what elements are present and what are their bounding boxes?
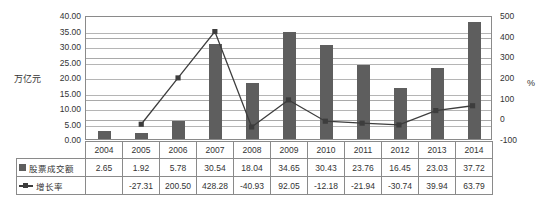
year-header-2009: 2009: [271, 142, 308, 159]
line-marker: [470, 103, 475, 108]
year-header-2012: 2012: [382, 142, 419, 159]
year-header-2005: 2005: [123, 142, 160, 159]
cell-增长率-2007: 428.28: [197, 177, 234, 195]
cell-增长率-2005: -27.31: [123, 177, 160, 195]
cell-股票成交额-2008: 18.04: [234, 159, 271, 177]
cell-股票成交额-2012: 16.45: [382, 159, 419, 177]
line-marker: [139, 122, 144, 127]
cell-股票成交额-2013: 23.03: [419, 159, 456, 177]
cell-增长率-2010: -12.18: [308, 177, 345, 195]
year-header-2013: 2013: [419, 142, 456, 159]
table-row: 增长率 -27.31200.50428.28-40.9392.05-12.18-…: [17, 177, 493, 195]
cell-股票成交额-2006: 5.78: [160, 159, 197, 177]
cell-股票成交额-2010: 30.43: [308, 159, 345, 177]
growth-rate-line: [141, 32, 472, 127]
line-series: [86, 17, 491, 139]
cell-增长率-2009: 92.05: [271, 177, 308, 195]
year-header-2007: 2007: [197, 142, 234, 159]
right-tick-2: 300: [500, 53, 530, 62]
cell-增长率-2008: -40.93: [234, 177, 271, 195]
year-header-2014: 2014: [456, 142, 493, 159]
data-table: 2004200520062007200820092010201120122013…: [16, 141, 493, 195]
year-header-2011: 2011: [345, 142, 382, 159]
line-marker: [360, 121, 365, 126]
plot-area: [85, 16, 492, 140]
series-name: 股票成交额: [29, 164, 74, 174]
right-tick-0: 500: [500, 12, 530, 21]
cell-股票成交额-2009: 34.65: [271, 159, 308, 177]
right-tick-5: 0: [500, 115, 530, 124]
cell-增长率-2013: 39.94: [419, 177, 456, 195]
series-label-bar: 股票成交额: [17, 159, 86, 177]
cell-增长率-2011: -21.94: [345, 177, 382, 195]
series-name: 增长率: [36, 182, 63, 192]
cell-股票成交额-2005: 1.92: [123, 159, 160, 177]
line-marker: [323, 119, 328, 124]
line-marker: [396, 122, 401, 127]
legend-square-icon: [19, 164, 26, 171]
cell-股票成交额-2007: 30.54: [197, 159, 234, 177]
cell-增长率-2014: 63.79: [456, 177, 493, 195]
cell-股票成交额-2004: 2.65: [86, 159, 123, 177]
legend-line-marker-icon: [19, 182, 33, 189]
chart-container: 万亿元 % 40.0035.0030.0025.0020.0015.0010.0…: [0, 0, 546, 202]
line-marker: [249, 124, 254, 129]
right-tick-6: -100: [500, 136, 530, 145]
right-tick-4: 100: [500, 95, 530, 104]
cell-增长率-2012: -30.74: [382, 177, 419, 195]
table-row: 股票成交额2.651.925.7830.5418.0434.6530.4323.…: [17, 159, 493, 177]
right-tick-1: 400: [500, 33, 530, 42]
cell-增长率-2004: [86, 177, 123, 195]
table-corner-cell: [17, 142, 86, 159]
year-header-2004: 2004: [86, 142, 123, 159]
table-row-years: 2004200520062007200820092010201120122013…: [17, 142, 493, 159]
line-marker: [286, 97, 291, 102]
year-header-2010: 2010: [308, 142, 345, 159]
line-marker: [433, 108, 438, 113]
cell-股票成交额-2011: 23.76: [345, 159, 382, 177]
year-header-2008: 2008: [234, 142, 271, 159]
line-marker: [175, 75, 180, 80]
right-tick-3: 200: [500, 74, 530, 83]
year-header-2006: 2006: [160, 142, 197, 159]
cell-股票成交额-2014: 37.72: [456, 159, 493, 177]
series-label-line: 增长率: [17, 177, 86, 195]
cell-增长率-2006: 200.50: [160, 177, 197, 195]
line-marker: [212, 29, 217, 34]
